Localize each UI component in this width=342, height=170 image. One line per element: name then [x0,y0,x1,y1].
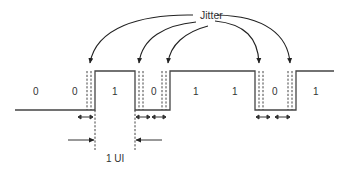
bit-labels: 0 0 1 0 1 1 0 1 [33,86,319,97]
bit-label: 1 [193,86,199,97]
bit-label: 1 [232,86,238,97]
signal-waveform [15,71,334,110]
jitter-arrow-edge-5 [217,15,290,63]
jitter-diagram: Jitter 0 0 1 0 1 1 0 1 [0,0,342,170]
jitter-arrow-edge-4 [215,21,259,63]
jitter-width-arrows [78,115,290,119]
jitter-arrow-edge-2 [139,22,196,63]
bit-label: 0 [272,86,278,97]
bit-label: 0 [33,86,39,97]
bit-label: 1 [112,86,118,97]
unit-interval-label: 1 UI [106,153,124,164]
bit-label: 1 [313,86,319,97]
bit-label: 0 [151,86,157,97]
jitter-arrow-edge-3 [168,26,208,63]
jitter-arrow-edge-1 [90,15,193,63]
bit-label: 0 [72,86,78,97]
jitter-pointer-arrows [90,15,290,63]
